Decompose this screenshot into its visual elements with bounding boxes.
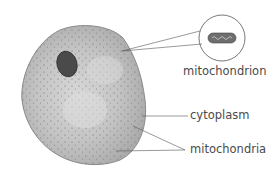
label-mitochondria: mitochondria [190,144,266,156]
mitochondrion-icon [208,33,236,43]
cell-body [22,26,146,165]
mitochondria-leader-1 [133,126,185,150]
label-cytoplasm: cytoplasm [190,110,249,122]
mitochondrion-zoom-callout [122,15,245,61]
cell-diagram [0,0,276,184]
label-mitochondrion: mitochondrion [183,66,266,78]
